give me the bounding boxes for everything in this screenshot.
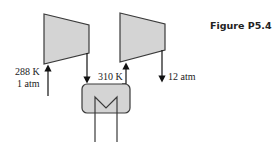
compressor-2	[120, 13, 165, 62]
outlet-pressure-label: 12 atm	[168, 71, 196, 82]
inlet-temperature-label: 288 K	[15, 66, 40, 77]
intercooler-temperature-label: 310 K	[98, 71, 123, 82]
figure-title: Figure P5.4	[210, 20, 272, 31]
inlet-pressure-label: 1 atm	[17, 78, 40, 89]
compressor-1	[44, 14, 89, 64]
